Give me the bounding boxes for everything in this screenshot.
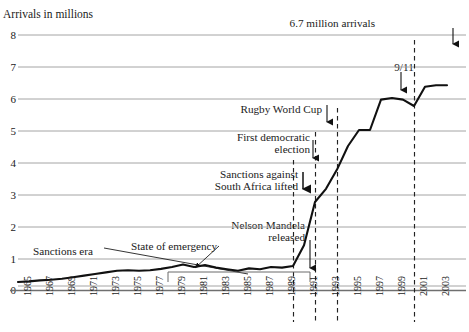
x-tick-1979: 1979 (176, 276, 187, 296)
x-tick-1991: 1991 (308, 276, 319, 296)
x-tick-1981: 1981 (198, 276, 209, 296)
x-tick-2003: 2003 (440, 276, 451, 296)
x-tick-1965: 1965 (22, 276, 33, 296)
annotation-leaders (104, 28, 453, 274)
x-tick-1971: 1971 (88, 276, 99, 296)
x-tick-1987: 1987 (264, 276, 275, 296)
gridlines (18, 35, 466, 259)
x-tick-1995: 1995 (352, 276, 363, 296)
x-tick-1989: 1989 (286, 276, 297, 296)
x-tick-1993: 1993 (330, 276, 341, 296)
x-tick-1985: 1985 (242, 276, 253, 296)
x-tick-1967: 1967 (44, 276, 55, 296)
x-tick-1975: 1975 (132, 276, 143, 296)
x-tick-1983: 1983 (220, 276, 231, 296)
x-tick-1969: 1969 (66, 276, 77, 296)
x-tick-1999: 1999 (396, 276, 407, 296)
x-tick-2001: 2001 (418, 276, 429, 296)
x-tick-1997: 1997 (374, 276, 385, 296)
tourism-arrivals-chart: Arrivals in millions 8 7 6 5 4 3 2 1 0 6… (0, 0, 469, 332)
x-tick-1973: 1973 (110, 276, 121, 296)
x-tick-1977: 1977 (154, 276, 165, 296)
arrivals-line (18, 85, 447, 282)
